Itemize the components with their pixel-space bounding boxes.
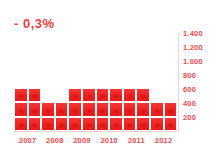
bar-block [55, 102, 69, 117]
y-axis-tick: 1.000 [183, 57, 203, 66]
bar-block [136, 88, 150, 103]
bar-block [96, 117, 110, 132]
bar-block [123, 102, 137, 117]
x-axis-tick: 2011 [123, 136, 150, 145]
bar-block [68, 88, 82, 103]
y-axis-tick: 600 [183, 85, 196, 94]
bar-block [14, 117, 28, 132]
bar-block [68, 117, 82, 132]
bar-block [123, 117, 137, 132]
bar-column [109, 88, 123, 132]
x-axis-tick: 2012 [150, 136, 177, 145]
bar-column [136, 88, 150, 132]
bar-block [41, 102, 55, 117]
bar-column [14, 88, 28, 132]
x-axis-tick: 2007 [14, 136, 41, 145]
bar-column [150, 102, 164, 131]
bar-block [82, 117, 96, 132]
bar-column [55, 102, 69, 131]
bar-block [136, 102, 150, 117]
bar-block [28, 102, 42, 117]
bar-block [164, 117, 178, 132]
bar-block [109, 102, 123, 117]
x-axis-tick: 2009 [68, 136, 95, 145]
bar-block [109, 88, 123, 103]
y-axis-tick: 200 [183, 113, 196, 122]
bar-block [14, 102, 28, 117]
x-axis-line [14, 131, 179, 132]
bar-block [96, 102, 110, 117]
bar-block [96, 88, 110, 103]
bar-block [82, 102, 96, 117]
bar-block [28, 117, 42, 132]
bar-column [28, 88, 42, 132]
bar-block [82, 88, 96, 103]
bar-columns [14, 33, 177, 131]
bar-block [150, 117, 164, 132]
bar-block [55, 117, 69, 132]
y-axis-tick: 400 [183, 99, 196, 108]
x-axis-tick-labels: 200720082009201020112012 [14, 136, 178, 145]
delta-percent-label: - 0,3% [14, 16, 55, 31]
y-axis-tick: 1.200 [183, 43, 203, 52]
bar-block [150, 102, 164, 117]
bar-column [123, 88, 137, 132]
x-axis-tick: 2008 [41, 136, 68, 145]
bar-block [109, 117, 123, 132]
bar-column [68, 88, 82, 132]
bar-column [41, 102, 55, 131]
bar-column [96, 88, 110, 132]
bar-block [28, 88, 42, 103]
x-axis-tick: 2010 [96, 136, 123, 145]
bar-block [68, 102, 82, 117]
plot-area [14, 33, 178, 131]
block-bar-chart: - 0,3% 1.4001.2001.000800600400200 20072… [0, 0, 217, 152]
bar-column [82, 88, 96, 132]
bar-block [41, 117, 55, 132]
bar-block [164, 102, 178, 117]
bar-block [136, 117, 150, 132]
bar-block [123, 88, 137, 103]
y-axis-line [178, 33, 179, 131]
bar-block [14, 88, 28, 103]
bar-column [164, 102, 178, 131]
y-axis-tick: 1.400 [183, 29, 203, 38]
y-axis-tick: 800 [183, 71, 196, 80]
